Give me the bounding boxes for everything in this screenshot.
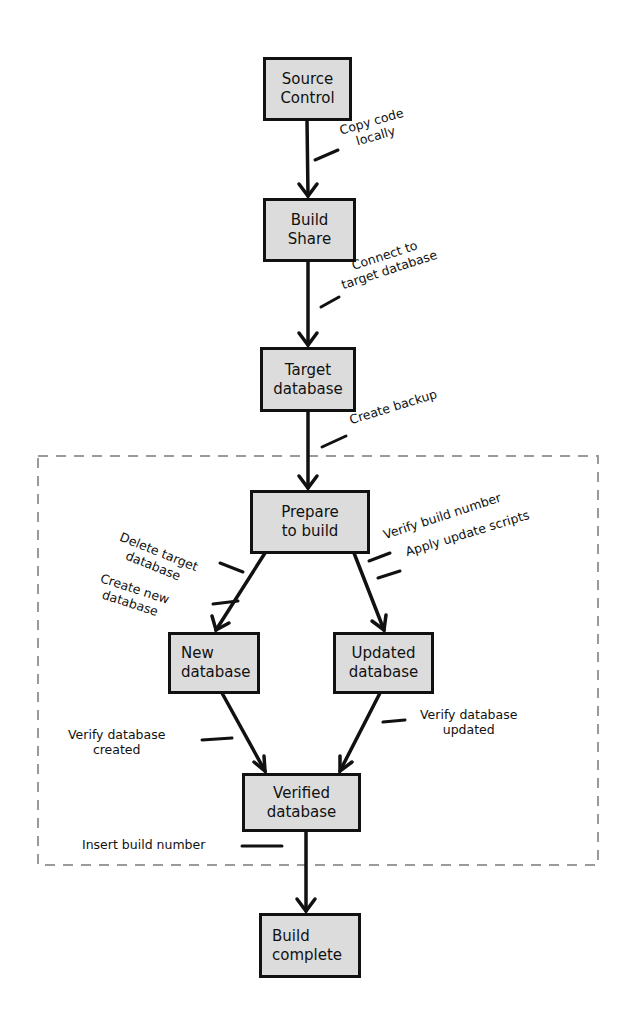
- annotation-tick: [321, 297, 339, 307]
- annotation-tick: [322, 436, 346, 447]
- node-target-database: Target database: [260, 347, 356, 412]
- node-label: Prepare: [281, 503, 339, 522]
- arrow-updated-to-verified: [340, 693, 380, 771]
- node-label: Updated: [352, 644, 416, 663]
- node-label: Verified: [273, 784, 330, 803]
- node-build-complete: Build complete: [259, 913, 361, 978]
- note-insert-build-number: Insert build number: [82, 837, 205, 852]
- note-verify-updated: Verify database updated: [420, 707, 517, 737]
- annotation-tick: [383, 720, 405, 722]
- node-label: Control: [280, 89, 334, 108]
- node-source-control: Source Control: [263, 57, 352, 121]
- annotation-tick: [315, 150, 338, 160]
- note-line: Verify database: [68, 727, 165, 742]
- arrow-source-to-build-share: [307, 120, 308, 196]
- node-label: database: [349, 663, 419, 682]
- annotation-tick: [369, 553, 390, 561]
- arrow-new-to-verified: [222, 693, 265, 771]
- arrow-prepare-to-updated-db: [354, 553, 384, 630]
- note-line: created: [68, 742, 165, 757]
- node-label: Source: [282, 70, 334, 89]
- note-verify-created: Verify database created: [68, 727, 165, 757]
- node-label: Share: [288, 230, 331, 249]
- note-line: Insert build number: [82, 837, 205, 852]
- node-label: complete: [272, 946, 342, 965]
- node-label: New: [181, 644, 214, 663]
- node-label: Target: [285, 361, 331, 380]
- node-updated-database: Updated database: [333, 632, 434, 694]
- annotation-tick: [220, 563, 243, 572]
- node-label: to build: [282, 522, 339, 541]
- note-line: Verify database: [420, 707, 517, 722]
- node-label: database: [273, 380, 343, 399]
- node-new-database: New database: [168, 632, 260, 694]
- node-prepare-to-build: Prepare to build: [250, 490, 370, 554]
- node-build-share: Build Share: [263, 198, 356, 262]
- note-line: updated: [420, 722, 517, 737]
- annotation-tick: [202, 738, 232, 740]
- node-label: Build: [291, 211, 329, 230]
- node-label: database: [181, 663, 251, 682]
- node-label: Build: [272, 927, 310, 946]
- annotation-tick: [378, 571, 400, 578]
- node-label: database: [267, 803, 337, 822]
- node-verified-database: Verified database: [242, 773, 361, 832]
